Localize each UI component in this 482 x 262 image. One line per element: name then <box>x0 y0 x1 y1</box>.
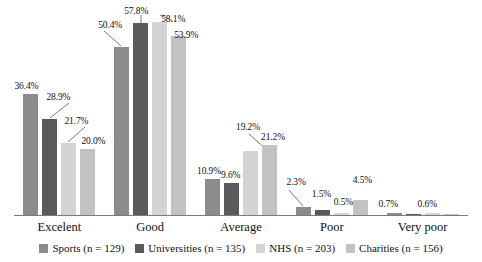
bar-good-universities[interactable] <box>133 23 148 215</box>
bar-slot-poor-charities: 4.5% <box>353 0 368 215</box>
plot-area: 36.4% 28.9% 21.7% <box>0 0 482 216</box>
bar-group-good: 50.4% 57.8% 58.1% <box>105 0 196 215</box>
legend-item-charities[interactable]: Charities (n = 156) <box>346 242 443 254</box>
legend-swatch-sports-icon <box>39 244 48 253</box>
bar-slot-good-charities: 53.9% <box>171 0 186 215</box>
bar-good-sports[interactable] <box>114 47 129 215</box>
legend-item-nhs[interactable]: NHS (n = 203) <box>256 242 335 254</box>
category-label-poor: Poor <box>286 217 377 237</box>
bar-slot-poor-sports: 2.3% <box>296 0 311 215</box>
bar-chart: 36.4% 28.9% 21.7% <box>0 0 482 262</box>
bar-average-charities[interactable] <box>262 145 277 215</box>
data-label-average-universities: 9.6% <box>221 170 240 180</box>
bar-slot-good-universities: 57.8% <box>133 0 148 215</box>
leader-line-poor-sports <box>287 187 305 207</box>
data-label-very-poor-sports: 0.7% <box>379 199 398 209</box>
bar-slot-poor-nhs: 0.5% <box>334 0 349 215</box>
leader-line-good-sports <box>102 29 122 47</box>
data-label-poor-charities: 4.5% <box>353 175 372 185</box>
bar-poor-charities[interactable] <box>353 200 368 215</box>
data-label-average-sports: 10.9% <box>197 166 221 176</box>
bar-groups: 36.4% 28.9% 21.7% <box>14 0 468 215</box>
bar-slot-good-nhs: 58.1% <box>152 0 167 215</box>
bar-average-nhs[interactable] <box>243 151 258 215</box>
legend-swatch-universities-icon <box>135 244 144 253</box>
bar-very-poor-nhs[interactable] <box>425 213 440 215</box>
bar-poor-universities[interactable] <box>315 210 330 215</box>
bar-excelent-nhs[interactable] <box>61 143 76 215</box>
bar-slot-average-sports: 10.9% <box>205 0 220 215</box>
bar-slot-excelent-nhs: 21.7% <box>61 0 76 215</box>
data-label-excelent-sports: 36.4% <box>14 81 38 91</box>
bar-slot-excelent-charities: 20.0% <box>80 0 95 215</box>
bar-poor-nhs[interactable] <box>334 213 349 215</box>
bar-slot-average-universities: 9.6% <box>224 0 239 215</box>
bar-group-average: 10.9% 9.6% 19.2% 21.2% <box>196 0 287 215</box>
data-label-good-sports: 50.4% <box>98 20 122 30</box>
bar-good-nhs[interactable] <box>152 22 167 215</box>
bar-very-poor-sports[interactable] <box>387 213 402 215</box>
data-label-poor-universities: 1.5% <box>312 189 331 199</box>
bar-poor-sports[interactable] <box>296 207 311 215</box>
legend-label-nhs: NHS (n = 203) <box>269 242 335 254</box>
data-label-excelent-charities: 20.0% <box>81 136 105 146</box>
bar-slot-very-poor-sports: 0.7% <box>387 0 402 215</box>
category-axis-labels: Excelent Good Average Poor Very poor <box>14 217 468 237</box>
bar-slot-very-poor-universities <box>406 0 421 215</box>
x-axis-line <box>14 215 468 216</box>
legend-label-universities: Universities (n = 135) <box>148 242 245 254</box>
legend-label-sports: Sports (n = 129) <box>52 242 124 254</box>
bar-average-universities[interactable] <box>224 183 239 215</box>
legend-swatch-charities-icon <box>346 244 355 253</box>
bar-slot-average-nhs: 19.2% <box>243 0 258 215</box>
bar-slot-excelent-universities: 28.9% <box>42 0 57 215</box>
bar-group-excelent: 36.4% 28.9% 21.7% <box>14 0 105 215</box>
data-label-poor-sports: 2.3% <box>286 177 305 187</box>
leader-line-good-universities <box>140 15 141 23</box>
bar-very-poor-charities[interactable] <box>444 214 459 215</box>
category-label-very-poor: Very poor <box>377 217 468 237</box>
bar-group-very-poor: 0.7% 0.6% <box>377 0 468 215</box>
bar-excelent-universities[interactable] <box>42 119 57 215</box>
data-label-poor-nhs: 0.5% <box>334 197 353 207</box>
bar-excelent-sports[interactable] <box>23 94 38 215</box>
bar-group-poor: 2.3% 1.5% 0.5% 4.5% <box>286 0 377 215</box>
legend-label-charities: Charities (n = 156) <box>359 242 443 254</box>
chart-legend: Sports (n = 129) Universities (n = 135) … <box>0 239 482 257</box>
category-label-good: Good <box>105 217 196 237</box>
category-label-average: Average <box>196 217 287 237</box>
bar-good-charities[interactable] <box>171 36 186 215</box>
bar-slot-good-sports: 50.4% <box>114 0 129 215</box>
category-label-excelent: Excelent <box>14 217 105 237</box>
bar-slot-poor-universities: 1.5% <box>315 0 330 215</box>
legend-swatch-nhs-icon <box>256 244 265 253</box>
legend-item-universities[interactable]: Universities (n = 135) <box>135 242 245 254</box>
bar-slot-very-poor-nhs: 0.6% <box>425 0 440 215</box>
bar-slot-excelent-sports: 36.4% <box>23 0 38 215</box>
data-label-average-charities: 21.2% <box>261 132 285 142</box>
bar-very-poor-universities[interactable] <box>406 214 421 215</box>
data-label-very-poor-nhs: 0.6% <box>418 199 437 209</box>
bar-average-sports[interactable] <box>205 179 220 215</box>
legend-item-sports[interactable]: Sports (n = 129) <box>39 242 124 254</box>
data-label-average-nhs: 19.2% <box>236 122 260 132</box>
bar-slot-very-poor-charities <box>444 0 459 215</box>
bar-slot-average-charities: 21.2% <box>262 0 277 215</box>
data-label-good-universities: 57.8% <box>124 6 148 16</box>
bar-excelent-charities[interactable] <box>80 149 95 215</box>
